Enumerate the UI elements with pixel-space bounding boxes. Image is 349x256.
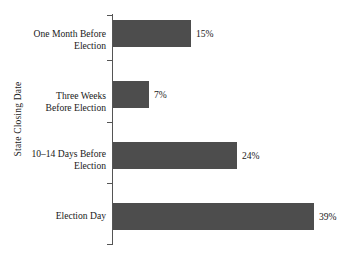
bar-value-one-month-before-election: 15% — [196, 20, 214, 47]
category-label-one-month-before-election: One Month Before Election — [8, 28, 106, 51]
bar-election-day — [113, 203, 314, 230]
axis-tick — [107, 244, 112, 245]
category-label-line2: Before Election — [8, 102, 106, 114]
category-label-line2: Election — [8, 40, 106, 52]
category-label-line1: Three Weeks — [8, 90, 106, 102]
category-label-line1: One Month Before — [8, 28, 106, 40]
plot-area: 15% 7% 24% 39% — [112, 0, 349, 256]
category-label-three-weeks-before-election: Three Weeks Before Election — [8, 90, 106, 113]
category-label-line1: 10–14 Days Before — [8, 148, 106, 160]
bar-chart: State Closing Date One Month Before Elec… — [0, 0, 349, 256]
axis-tick — [107, 15, 112, 16]
bar-value-10-14-days-before-election: 24% — [242, 142, 260, 169]
category-label-line1: Election Day — [8, 210, 106, 222]
category-label-column: One Month Before Election Three Weeks Be… — [8, 14, 106, 246]
category-label-election-day: Election Day — [8, 210, 106, 222]
bar-value-three-weeks-before-election: 7% — [154, 81, 167, 108]
axis-tick — [107, 183, 112, 184]
axis-tick — [107, 60, 112, 61]
category-label-10-14-days-before-election: 10–14 Days Before Election — [8, 148, 106, 171]
bar-10-14-days-before-election — [113, 142, 237, 169]
bar-one-month-before-election — [113, 20, 191, 47]
axis-tick — [107, 122, 112, 123]
bar-value-election-day: 39% — [319, 203, 337, 230]
category-label-line2: Election — [8, 160, 106, 172]
bar-three-weeks-before-election — [113, 81, 149, 108]
